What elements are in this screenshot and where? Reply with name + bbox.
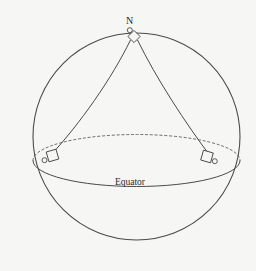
meridian-arc-left (50, 40, 131, 157)
equator-vertex-left-dot (42, 158, 47, 163)
sphere-outline-circle (33, 33, 240, 240)
spherical-triangle-diagram: N Equator (0, 0, 256, 271)
meridian-arc-right (138, 40, 212, 157)
north-pole-vertex-dot (127, 28, 132, 33)
equator-label: Equator (115, 177, 146, 187)
north-pole-label: N (126, 15, 133, 26)
figure-root: N Equator (0, 0, 256, 271)
equator-vertex-right-dot (212, 159, 217, 164)
equator-vertex-left-right-angle-marker (46, 149, 59, 162)
equator-vertex-right-right-angle-marker (201, 150, 214, 163)
cropped-caption-strip (0, 0, 256, 7)
